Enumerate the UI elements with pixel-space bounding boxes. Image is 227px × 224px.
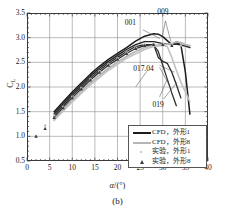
figure-chart-cl-vs-alpha: 0.51.01.52.02.53.03.5 0510152025303540 C…	[0, 0, 227, 224]
chart-legend: CFD，外形1 CFD，外形8 实验，外形1 实验，外形8	[128, 125, 207, 168]
x-tick-label: 15	[86, 163, 104, 172]
legend-line-icon	[132, 138, 152, 147]
annotation-017-04: 017.04	[133, 64, 154, 73]
y-tick-label: 3.0	[1, 34, 25, 42]
scatter-dot	[44, 124, 47, 127]
legend-label: 实验，外形1	[152, 147, 191, 156]
legend-line-icon	[132, 128, 152, 137]
scatter-dot	[180, 44, 183, 47]
y-tick-label: 1.5	[1, 108, 25, 116]
y-tick-label: 1.0	[1, 132, 25, 140]
y-tick-labels: 0.51.01.52.02.53.03.5	[0, 0, 25, 224]
series-line	[54, 34, 190, 114]
legend-label: 实验，外形8	[152, 157, 191, 166]
legend-item: 实验，外形1	[132, 147, 204, 157]
annotation-019: 019	[152, 100, 163, 109]
scatter-triangle	[43, 127, 46, 130]
x-tick-label: 0	[18, 163, 36, 172]
figure-subcaption: (b)	[27, 196, 208, 206]
x-tick-label: 5	[41, 163, 59, 172]
legend-item: 实验，外形8	[132, 157, 204, 167]
annotation-001: 001	[125, 18, 136, 27]
data-series	[54, 34, 190, 121]
x-tick-label: 20	[109, 163, 127, 172]
x-axis-title: α/(°)	[27, 180, 208, 190]
annotation-009: 009	[157, 7, 168, 16]
legend-dot-icon	[132, 147, 152, 156]
legend-triangle-icon	[132, 157, 152, 166]
chart-graphics	[0, 0, 227, 224]
legend-item: CFD，外形1	[132, 128, 204, 138]
y-tick-label: 3.5	[1, 9, 25, 17]
y-tick-label: 2.5	[1, 58, 25, 66]
y-axis-title: CL	[6, 73, 17, 93]
legend-label: CFD，外形8	[152, 138, 190, 147]
x-tick-label: 10	[63, 163, 81, 172]
legend-item: CFD，外形8	[132, 138, 204, 148]
legend-label: CFD，外形1	[152, 128, 190, 137]
